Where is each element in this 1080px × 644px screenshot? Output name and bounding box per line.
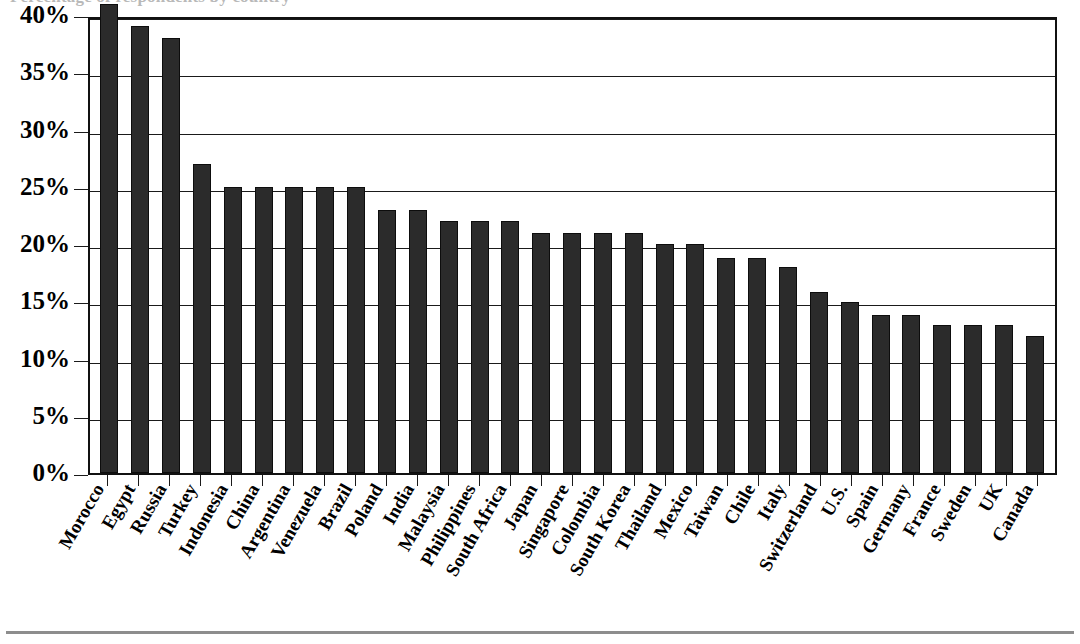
bar-slot <box>557 19 588 473</box>
bar <box>995 325 1013 473</box>
bar <box>1026 336 1044 473</box>
y-axis-tick-mark <box>74 246 88 247</box>
bar-slot <box>217 19 248 473</box>
bar-slot <box>433 19 464 473</box>
y-axis-tick-mark <box>74 361 88 362</box>
x-axis-tick-mark <box>541 475 542 486</box>
bar <box>748 258 766 473</box>
bar <box>933 325 951 473</box>
x-axis-label-slot: Canada <box>1021 486 1052 616</box>
x-axis-tick-mark <box>758 475 759 486</box>
bar <box>285 187 303 473</box>
y-axis-tick-label: 10% <box>20 346 70 371</box>
bar-series <box>90 19 1055 473</box>
x-axis-tick-mark <box>572 475 573 486</box>
bar <box>162 38 180 473</box>
x-axis-tick-mark <box>944 475 945 486</box>
bar <box>193 164 211 473</box>
bar <box>656 244 674 473</box>
x-axis-tick-mark <box>479 475 480 486</box>
bar <box>902 315 920 473</box>
bar-slot <box>94 19 125 473</box>
x-axis-tick-mark <box>1006 475 1007 486</box>
x-axis-tick-mark <box>820 475 821 486</box>
bar-slot <box>588 19 619 473</box>
bar <box>131 26 149 473</box>
y-axis-tick-mark <box>74 189 88 190</box>
x-axis-tick-mark <box>200 475 201 486</box>
x-axis-tick-mark <box>727 475 728 486</box>
bar <box>100 4 118 473</box>
x-axis-tick-mark <box>262 475 263 486</box>
bar-slot <box>927 19 958 473</box>
bar-slot <box>248 19 279 473</box>
y-axis-tick-label: 0% <box>33 460 71 485</box>
bar-slot <box>958 19 989 473</box>
bar-slot <box>1019 19 1050 473</box>
y-axis: 40%35%30%25%20%15%10%5%0% <box>0 17 88 475</box>
bar-slot <box>310 19 341 473</box>
x-axis-tick-mark <box>169 475 170 486</box>
bar <box>316 187 334 473</box>
x-axis-tick-mark <box>386 475 387 486</box>
x-axis-tick-mark <box>634 475 635 486</box>
y-axis-tick-mark <box>74 132 88 133</box>
x-axis-tick-mark <box>789 475 790 486</box>
bar-slot <box>803 19 834 473</box>
bar-slot <box>372 19 403 473</box>
bar <box>594 233 612 473</box>
bar <box>625 233 643 473</box>
bar <box>686 244 704 473</box>
bar <box>440 221 458 473</box>
x-axis-tick-mark <box>293 475 294 486</box>
bar <box>501 221 519 473</box>
y-axis-tick-mark <box>74 74 88 75</box>
bar-slot <box>187 19 218 473</box>
x-axis-tick-mark <box>603 475 604 486</box>
bar-slot <box>773 19 804 473</box>
bar-slot <box>156 19 187 473</box>
bar-slot <box>618 19 649 473</box>
bar <box>841 302 859 473</box>
plot-area <box>88 17 1057 475</box>
y-axis-tick-mark <box>74 303 88 304</box>
x-axis-tick-mark <box>138 475 139 486</box>
x-axis-tick-mark <box>882 475 883 486</box>
x-axis-labels: MoroccoEgyptRussiaTurkeyIndonesiaChinaAr… <box>88 486 1057 616</box>
x-axis-tick-mark <box>696 475 697 486</box>
x-axis-tick-mark <box>975 475 976 486</box>
x-axis-tick-mark <box>107 475 108 486</box>
bar-slot <box>896 19 927 473</box>
bar-slot <box>279 19 310 473</box>
bar-slot <box>680 19 711 473</box>
bar-slot <box>402 19 433 473</box>
bar <box>224 187 242 473</box>
y-axis-tick-mark <box>74 418 88 419</box>
bar <box>810 292 828 473</box>
bar-slot <box>742 19 773 473</box>
x-axis-tick-mark <box>665 475 666 486</box>
y-axis-tick-label: 20% <box>20 231 70 256</box>
bar-slot <box>526 19 557 473</box>
x-axis-ticks <box>88 475 1057 486</box>
bar <box>964 325 982 473</box>
x-axis-tick-mark <box>355 475 356 486</box>
bar-slot <box>649 19 680 473</box>
y-axis-tick-mark <box>74 17 88 18</box>
x-axis-tick-mark <box>1037 475 1038 486</box>
bar-chart-figure: 40%35%30%25%20%15%10%5%0% MoroccoEgyptRu… <box>0 0 1080 644</box>
bar-slot <box>464 19 495 473</box>
y-axis-tick-label: 35% <box>20 59 70 84</box>
x-axis-tick-mark <box>510 475 511 486</box>
bar-slot <box>495 19 526 473</box>
y-axis-tick-label: 30% <box>20 117 70 142</box>
x-axis-tick-mark <box>851 475 852 486</box>
footer-rule <box>6 631 1074 634</box>
bar <box>378 210 396 473</box>
bar-slot <box>125 19 156 473</box>
bar <box>471 221 489 473</box>
bar <box>872 315 890 473</box>
x-axis-tick-mark <box>913 475 914 486</box>
x-axis-tick-mark <box>324 475 325 486</box>
y-axis-tick-label: 25% <box>20 174 70 199</box>
